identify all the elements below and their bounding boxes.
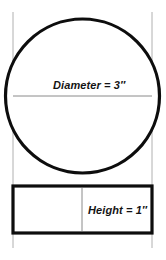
diameter-label: Diameter = 3″ bbox=[53, 79, 125, 92]
dimension-diagram: Diameter = 3″ Height = 1″ bbox=[0, 0, 166, 260]
height-label: Height = 1″ bbox=[88, 204, 147, 217]
diagram-canvas bbox=[0, 0, 166, 260]
